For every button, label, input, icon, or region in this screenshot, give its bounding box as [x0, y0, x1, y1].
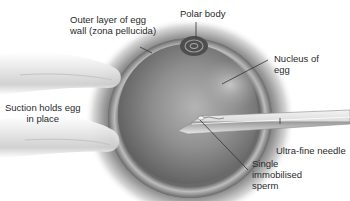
label-nucleus: Nucleus of egg	[274, 53, 319, 75]
polar-body	[180, 36, 208, 56]
label-sperm: Single immobilised sperm	[252, 158, 302, 191]
label-outer-layer: Outer layer of egg wall (zona pellucida)	[70, 14, 156, 36]
icsi-diagram: Outer layer of egg wall (zona pellucida)…	[0, 0, 350, 201]
egg-nucleus	[198, 59, 262, 111]
label-needle: Ultra-fine needle	[276, 145, 346, 156]
label-suction: Suction holds egg in place	[5, 102, 81, 124]
label-polar-body: Polar body	[180, 8, 225, 19]
